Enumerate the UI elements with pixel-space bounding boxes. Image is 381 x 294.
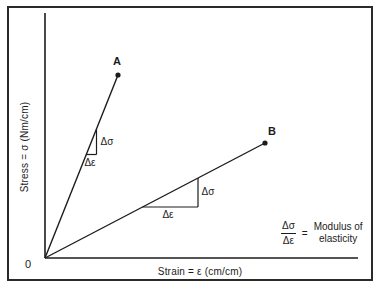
modulus-note-line2: elasticity: [314, 233, 363, 245]
fraction-denominator: Δε: [283, 234, 294, 247]
y-axis-label: Stress = σ (Nm/cm): [20, 102, 30, 193]
delta-sigma-label-b: Δσ: [202, 187, 215, 197]
delta-sigma-label-a: Δσ: [101, 137, 114, 147]
modulus-note-text: Modulus of elasticity: [314, 221, 363, 245]
point-a-label: A: [113, 56, 121, 67]
plot-graphics: [0, 0, 381, 294]
point-b-label: B: [268, 126, 276, 137]
modulus-note-line1: Modulus of: [314, 221, 363, 233]
fraction-numerator: Δσ: [281, 220, 296, 234]
point-a-dot: [115, 72, 120, 77]
figure-canvas: 0 Stress = σ (Nm/cm) Strain = ε (cm/cm) …: [0, 0, 381, 294]
delta-epsilon-label-a: Δε: [84, 158, 95, 168]
modulus-note: Δσ Δε = Modulus of elasticity: [281, 220, 363, 246]
curve-a-line: [45, 75, 118, 258]
curve-b-line: [45, 143, 265, 258]
x-axis-label: Strain = ε (cm/cm): [158, 267, 242, 277]
delta-epsilon-label-b: Δε: [162, 210, 173, 220]
point-b-dot: [262, 140, 267, 145]
modulus-fraction: Δσ Δε: [281, 220, 296, 246]
equals-sign: =: [301, 228, 309, 239]
origin-label: 0: [25, 259, 31, 270]
